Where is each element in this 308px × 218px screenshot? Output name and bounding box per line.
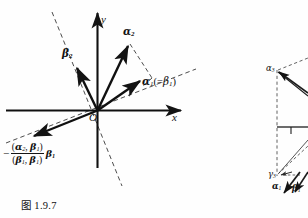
side-label-alpha3: α3 — [266, 64, 275, 74]
vector-label-alpha2: α2 — [123, 26, 135, 38]
vector-projection-negative-beta1 — [34, 111, 98, 137]
side-beta1-sub: 1 — [298, 187, 301, 193]
beta2-subscript: 2 — [69, 52, 72, 59]
alpha2-subscript: 2 — [131, 30, 134, 37]
alpha2-base: α — [123, 25, 131, 37]
projection-minus-sign: − — [3, 148, 9, 159]
side-alpha1-sub: 1 — [279, 185, 282, 191]
figure-canvas — [0, 0, 308, 218]
tail-beta-sub: 1 — [52, 152, 55, 159]
x-axis-label: x — [172, 112, 177, 123]
vector-beta2 — [77, 68, 98, 111]
dashed-segment-alpha2-to-beta1-line — [130, 44, 152, 78]
projection-denominator: (β1, β1) — [11, 155, 43, 166]
beta2-base: β — [62, 47, 69, 59]
side-plot-group — [277, 58, 308, 193]
projection-fraction: (α2, β1) (β1, β1) — [11, 142, 44, 166]
figure-caption: 图 1.9.7 — [0, 197, 193, 212]
num-close-paren: ) — [40, 142, 43, 152]
equals-close-paren: ) — [173, 76, 177, 87]
side-dashed-top-edge — [278, 58, 308, 70]
projection-numerator: (α2, β1) — [11, 142, 44, 153]
equals-open-paren: (= — [154, 76, 163, 87]
side-label-gamma3: γ3 — [268, 170, 276, 180]
side-gamma3-sub: 3 — [273, 173, 276, 179]
side-solid-edge — [278, 72, 308, 96]
figure-root: y x O α2 β2 α1(=β1) − (α2, β1) (β1, β1) … — [0, 0, 308, 218]
vector-label-alpha1-equals-beta1: α1(=β1) — [142, 76, 176, 88]
vector-label-beta2: β2 — [62, 48, 72, 60]
dashed-line-beta2-direction — [52, 12, 122, 186]
projection-expression-label: − (α2, β1) (β1, β1) β1 — [3, 142, 55, 166]
y-axis-label: y — [101, 14, 106, 25]
side-alpha3-sub: 3 — [272, 67, 275, 73]
origin-label: O — [89, 112, 97, 123]
side-label-alpha1: α1 — [272, 182, 281, 192]
side-label-beta1: β1 — [292, 184, 300, 194]
side-arrow-alpha3 — [279, 72, 308, 93]
den-close-paren: ) — [39, 155, 42, 165]
side-dashed-diagonal — [278, 146, 308, 174]
alpha1-base: α — [142, 75, 150, 87]
projection-tail-beta1: β1 — [46, 148, 55, 159]
side-arrow-gamma3 — [281, 172, 292, 175]
side-thin-line-to-gamma3 — [279, 140, 308, 173]
